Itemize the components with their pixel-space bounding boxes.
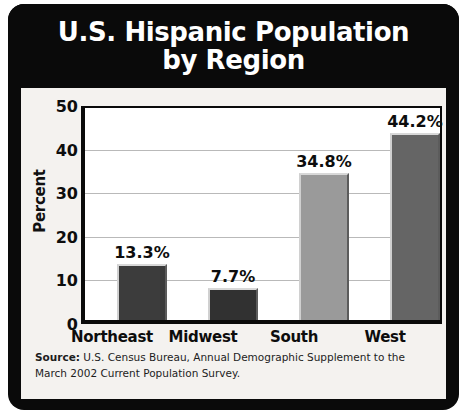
bar-south[interactable] <box>299 173 349 320</box>
bar-slot-northeast[interactable]: 13.3% <box>117 108 167 320</box>
axes-box: 13.3% 7.7% 34.8% 44.2% <box>81 106 442 324</box>
bar-value-south: 34.8% <box>269 152 379 171</box>
bar-midwest[interactable] <box>208 288 258 321</box>
source-text: U.S. Census Bureau, Annual Demographic S… <box>35 351 405 379</box>
bar-slot-south[interactable]: 34.8% <box>299 108 349 320</box>
title-band: U.S. Hispanic Population by Region <box>8 4 459 88</box>
bar-value-midwest: 7.7% <box>178 267 288 286</box>
bars-layer: 13.3% 7.7% 34.8% 44.2% <box>85 108 440 320</box>
chart-panel: Percent 50 40 30 20 10 0 13.3% <box>21 88 446 399</box>
bar-slot-midwest[interactable]: 7.7% <box>208 108 258 320</box>
bar-west[interactable] <box>390 133 440 320</box>
y-tick-label-20: 20 <box>42 228 78 247</box>
y-tick-label-50: 50 <box>42 97 78 116</box>
category-label-west: West <box>330 328 440 346</box>
source-label: Source: <box>35 351 80 363</box>
bar-value-northeast: 13.3% <box>87 243 197 262</box>
source-note: Source: U.S. Census Bureau, Annual Demog… <box>35 350 433 382</box>
bar-value-west: 44.2% <box>360 112 446 131</box>
bar-slot-west[interactable]: 44.2% <box>390 108 440 320</box>
y-tick-label-30: 30 <box>42 184 78 203</box>
y-tick-label-40: 40 <box>42 141 78 160</box>
chart-title: U.S. Hispanic Population by Region <box>58 18 409 74</box>
y-tick-label-10: 10 <box>42 271 78 290</box>
plot-region: Percent 50 40 30 20 10 0 13.3% <box>21 88 446 344</box>
bar-northeast[interactable] <box>117 264 167 320</box>
figure-card: U.S. Hispanic Population by Region Perce… <box>8 4 459 410</box>
